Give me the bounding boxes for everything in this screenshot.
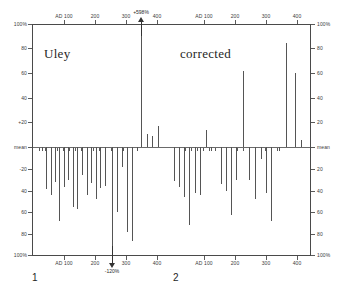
panel2-number: 2 [173, 272, 179, 283]
panel2-top-tick-ad100 [204, 20, 205, 24]
panel2-ylabel-2: 60 [317, 70, 323, 76]
bar [174, 147, 175, 181]
panel2-top-xlabel-ad100: AD 100 [195, 13, 212, 19]
panel1-top-tick-300 [126, 20, 127, 24]
bar [266, 147, 267, 193]
bar-offscale-positive [141, 24, 142, 147]
panel1-ytick-5 [28, 147, 32, 148]
panel1-ylabel-3: 40 [21, 95, 27, 101]
panel2-bottom-xlabel-300: 300 [262, 260, 271, 266]
panel2-ytick-8 [311, 212, 315, 213]
panel1-y-axis [32, 24, 33, 256]
panel2-ylabel-1: 80 [317, 45, 323, 51]
bar [255, 147, 256, 199]
bar [286, 43, 287, 147]
panel1-number: 1 [32, 272, 38, 283]
panel2-comb-tick [203, 148, 204, 151]
panel1-comb-tick [123, 148, 124, 151]
panel2-ytick-0 [311, 24, 315, 25]
panel2-top-axis [171, 24, 311, 25]
bar [100, 147, 101, 188]
bar [77, 147, 78, 209]
panel2-mean-line [171, 147, 311, 148]
bar [243, 71, 244, 147]
bar [46, 147, 47, 189]
bar [137, 147, 138, 151]
panel1-ytick-9 [28, 234, 32, 235]
offscale-up-arrow-shaft [141, 20, 142, 36]
bar [231, 147, 232, 215]
bar [152, 136, 153, 147]
annotation-minus-120: -120% [105, 268, 119, 274]
bar [117, 147, 118, 212]
panel1-top-tick-200 [95, 20, 96, 24]
bar [184, 147, 185, 197]
panel1-ytick-0 [28, 24, 32, 25]
bar [122, 147, 123, 167]
panel2-bottom-xlabel-400: 400 [293, 260, 302, 266]
bar [64, 147, 65, 187]
panel2-ytick-10 [311, 255, 315, 256]
bar [147, 134, 148, 147]
panel2-bottom-xlabel-ad100: AD 100 [195, 260, 212, 266]
bar [200, 147, 201, 195]
panel1-ylabel-8: 60 [21, 209, 27, 215]
panel1-ytick-4 [28, 122, 32, 123]
panel1-title: Uley [44, 46, 70, 62]
panel1-ylabel-0: 100% [14, 21, 27, 27]
panel1-ytick-6 [28, 169, 32, 170]
panel1-top-xlabel-300: 300 [122, 13, 131, 19]
bar [179, 147, 180, 187]
panel1-mean-line [32, 147, 171, 148]
panel2-ytick-4 [311, 122, 315, 123]
panel2-comb-tick [197, 148, 198, 151]
offscale-up-arrowhead [138, 17, 144, 22]
panel1-bottom-xlabel-400: 400 [153, 260, 162, 266]
panel2-top-tick-300 [266, 20, 267, 24]
panel2-ylabel-7: 40 [317, 188, 323, 194]
panel2-ylabel-8: 60 [317, 209, 323, 215]
bar [127, 147, 128, 232]
panel2-ytick-5 [311, 147, 315, 148]
panel1-top-tick-400 [157, 20, 158, 24]
panel2-top-tick-400 [297, 20, 298, 24]
panel2-ytick-1 [311, 48, 315, 49]
panel-corrected: AD 100 200 300 400 AD 100 200 300 400 10… [171, 0, 342, 295]
bar [195, 147, 196, 193]
bar [189, 147, 190, 225]
panel2-title: corrected [180, 46, 231, 62]
bar [158, 126, 159, 147]
figure-root: AD 100 200 300 400 AD 100 200 300 400 10… [0, 0, 342, 295]
bar [261, 147, 262, 159]
bar [301, 140, 302, 147]
panel2-comb-tick [215, 148, 216, 151]
bar [271, 147, 272, 221]
panel1-comb-tick [75, 148, 76, 151]
panel1-ylabel-6: -20 [19, 166, 27, 172]
panel2-comb-tick [243, 148, 244, 151]
panel2-comb-tick [185, 148, 186, 151]
bar [211, 147, 212, 151]
panel1-bottom-xlabel-200: 200 [91, 260, 100, 266]
bar [295, 73, 296, 147]
panel2-y-axis [310, 24, 311, 256]
panel1-ytick-3 [28, 98, 32, 99]
panel1-bottom-axis [32, 255, 171, 256]
panel2-ytick-9 [311, 234, 315, 235]
bar [236, 147, 237, 180]
bar [59, 147, 60, 221]
bar [87, 147, 88, 195]
panel2-ytick-7 [311, 191, 315, 192]
panel1-ylabel-mean: mean [14, 144, 27, 150]
panel1-top-xlabel-200: 200 [91, 13, 100, 19]
panel1-ytick-7 [28, 191, 32, 192]
panel2-comb-tick [237, 148, 238, 151]
panel1-ylabel-10: 100% [14, 252, 27, 258]
bar [105, 147, 106, 186]
bar [82, 147, 83, 175]
bar [73, 147, 74, 207]
bar [68, 147, 69, 180]
bar [91, 147, 92, 183]
panel1-bottom-xlabel-ad100: AD 100 [55, 260, 72, 266]
panel1-comb-tick [93, 148, 94, 151]
